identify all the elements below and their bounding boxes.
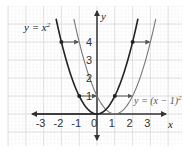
x-tick-label: -3 <box>36 117 46 129</box>
x-tick-label: 0 <box>91 117 97 129</box>
x-axis-label: x <box>167 118 173 130</box>
y-tick-label: 1 <box>86 90 92 102</box>
curve2-label: y = (x − 1)2 <box>133 94 182 107</box>
x-tick-label: 2 <box>127 117 133 129</box>
point-marker <box>59 40 63 44</box>
y-tick-label: 2 <box>86 72 92 84</box>
point-marker <box>113 94 117 98</box>
x-tick-label: -1 <box>71 117 81 129</box>
x-tick-label: 1 <box>109 117 115 129</box>
point-marker <box>77 94 81 98</box>
parabola-translation-chart: -3-2-10123 1234 x y y = x2 y = (x − 1)2 <box>0 0 190 153</box>
x-tick-label: -2 <box>54 117 64 129</box>
y-tick-label: 3 <box>86 54 92 66</box>
curve1-label: y = x2 <box>23 21 51 33</box>
point-marker <box>131 40 135 44</box>
y-axis-label: y <box>100 10 106 22</box>
y-tick-label: 4 <box>86 36 92 48</box>
x-tick-label: 3 <box>144 117 150 129</box>
